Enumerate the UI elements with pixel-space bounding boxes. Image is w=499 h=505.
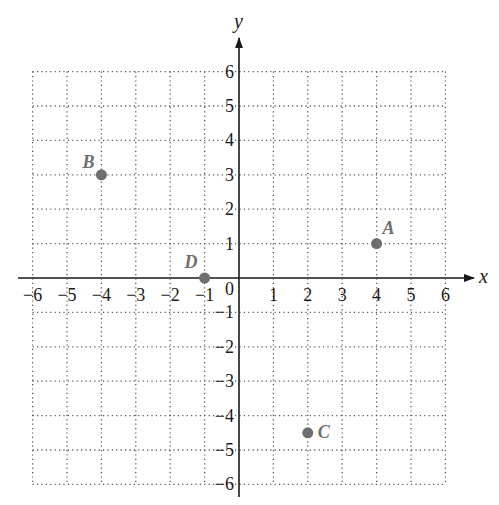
axes: xy [18,10,488,497]
y-tick-label: 6 [225,62,234,82]
point-label-c: C [318,422,331,442]
point-label-a: A [382,218,395,238]
x-tick-label: 3 [338,285,347,305]
point-label-b: B [81,152,94,172]
origin-label: 0 [225,279,234,299]
x-tick-label: 6 [441,285,450,305]
y-tick-label: −1 [215,302,234,322]
x-tick-label: 4 [372,285,381,305]
x-tick-label: 1 [269,285,278,305]
x-tick-label: −5 [57,285,76,305]
x-tick-label: −4 [92,285,111,305]
y-tick-label: −4 [215,406,234,426]
y-tick-label: −6 [215,474,234,494]
y-tick-label: −3 [215,371,234,391]
point-c [302,427,313,438]
x-axis-label: x [478,265,488,287]
x-tick-label: −1 [195,285,214,305]
x-tick-label: −3 [126,285,145,305]
y-tick-label: 2 [225,199,234,219]
x-tick-label: 2 [303,285,312,305]
coordinate-plane: xy −6−5−4−3−2−1123456654321−1−2−3−4−5−60… [0,0,499,505]
y-tick-label: 3 [225,165,234,185]
point-label-d: D [184,252,198,272]
point-a [371,238,382,249]
y-tick-label: 5 [225,96,234,116]
y-tick-label: 4 [225,130,234,150]
point-b [96,169,107,180]
x-tick-label: −2 [161,285,180,305]
y-tick-label: −5 [215,440,234,460]
y-axis-label: y [232,10,243,33]
y-tick-label: 1 [225,234,234,254]
x-tick-label: −6 [23,285,42,305]
x-tick-label: 5 [407,285,416,305]
point-d [199,273,210,284]
y-tick-label: −2 [215,337,234,357]
